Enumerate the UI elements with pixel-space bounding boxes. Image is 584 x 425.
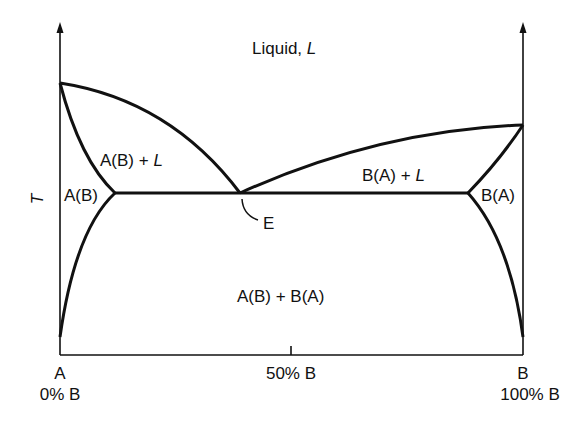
solidus-a [60,83,115,193]
solvus-a [60,193,115,337]
x-label-a: A [54,364,66,383]
liquidus-a [60,83,240,193]
x-label-0pct: 0% B [40,385,81,404]
x-label-100pct: 100% B [500,385,560,404]
label-liquid: Liquid, L [252,39,316,58]
label-eutectic: E [263,214,274,233]
x-label-50pct: 50% B [266,364,316,383]
phase-diagram: Liquid, L A(B) + L B(A) + L A(B) B(A) A(… [0,0,584,425]
label-ab-plus-l: A(B) + L [100,151,163,170]
y-axis-label: T [28,192,47,204]
eutectic-leader [242,199,258,220]
label-ba-plus-l: B(A) + L [362,166,425,185]
solidus-b [468,125,523,193]
label-ab: A(B) [64,186,98,205]
x-label-b: B [517,364,528,383]
label-ba: B(A) [481,186,515,205]
label-two-solid: A(B) + B(A) [237,287,324,306]
left-axis-arrow-icon [57,22,64,33]
solvus-b [468,193,523,337]
right-axis-arrow-icon [520,22,527,33]
